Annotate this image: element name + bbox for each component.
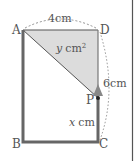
label-C: C bbox=[99, 137, 108, 151]
label-area: ycm2 bbox=[55, 42, 86, 55]
point-P bbox=[96, 96, 100, 100]
label-P: P bbox=[86, 93, 94, 107]
label-distance: xcm bbox=[69, 116, 95, 129]
label-B: B bbox=[12, 137, 21, 151]
label-A: A bbox=[11, 23, 21, 37]
label-width: 4cm bbox=[48, 12, 72, 25]
rectangle-diagram: A D B C P 4cm 6cm ycm2 xcm bbox=[0, 0, 134, 161]
label-height: 6cm bbox=[103, 77, 127, 90]
label-D: D bbox=[100, 23, 110, 37]
